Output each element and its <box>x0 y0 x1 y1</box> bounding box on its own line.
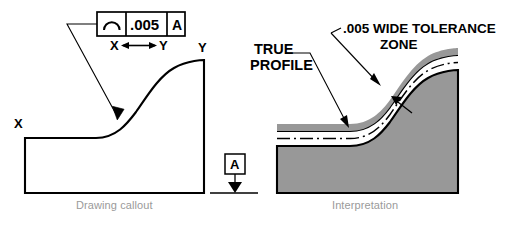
true-profile-label-line2: PROFILE <box>250 57 313 73</box>
between-arrow-right-head <box>149 42 157 49</box>
between-arrow-left-head <box>121 42 129 49</box>
leader-arrowhead-callout <box>110 106 125 121</box>
tolerance-zone-leader-line <box>331 33 378 83</box>
tolerance-zone-leader-hook <box>331 28 341 33</box>
between-designation: X Y <box>110 38 168 53</box>
label-y-callout: Y <box>198 40 207 55</box>
gdt-profile-figure: X Y .005 A X <box>0 0 511 228</box>
true-profile-label-line1: TRUE <box>254 41 294 57</box>
tolerance-zone-label-line1: .005 WIDE TOLERANCE <box>343 21 496 36</box>
caption-drawing-callout: Drawing callout <box>76 199 153 211</box>
datum-feature-symbol-a[interactable]: A <box>210 154 258 193</box>
caption-interpretation: Interpretation <box>332 199 398 211</box>
fcf-datum-reference: A <box>172 17 182 33</box>
drawing-callout-group: X Y .005 A X <box>14 12 258 193</box>
datum-triangle <box>228 182 242 193</box>
part-outline-callout <box>25 60 204 193</box>
interpretation-group: .005 WIDE TOLERANCE ZONE TRUE PROFILE <box>250 21 496 193</box>
feature-control-frame[interactable]: .005 A <box>97 12 185 36</box>
true-profile-annotation: TRUE PROFILE <box>250 41 349 128</box>
tolerance-zone-label-line2: ZONE <box>380 37 418 52</box>
fcf-tolerance-value: .005 <box>130 16 159 33</box>
datum-letter: A <box>230 157 240 172</box>
between-from-label: X <box>110 38 119 53</box>
between-to-label: Y <box>159 38 168 53</box>
tolerance-zone-arrowhead <box>370 73 381 86</box>
figure-canvas: X Y .005 A X <box>0 0 511 228</box>
label-x-callout: X <box>14 116 23 131</box>
